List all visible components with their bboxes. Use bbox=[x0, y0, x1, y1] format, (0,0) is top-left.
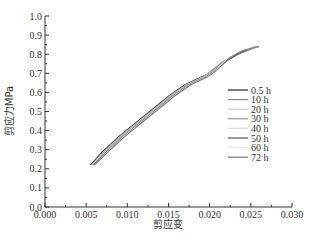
x-tick-label: 0.010 bbox=[116, 209, 139, 220]
y-tick-label: 1.0 bbox=[30, 11, 43, 22]
legend-label: 72 h bbox=[251, 152, 269, 163]
y-tick-label: 0.4 bbox=[30, 125, 43, 136]
x-tick-label: 0.000 bbox=[34, 209, 57, 220]
y-tick-label: 0.3 bbox=[30, 144, 43, 155]
x-ticks: 0.0000.0050.0100.0150.0200.0250.030 bbox=[34, 203, 304, 220]
legend: 0.5 h10 h20 h30 h40 h50 h60 h72 h bbox=[228, 85, 271, 163]
x-tick-label: 0.025 bbox=[240, 209, 263, 220]
x-axis-title: 剪应变 bbox=[153, 218, 183, 230]
shear-stress-strain-chart: 0.00.10.20.30.40.50.60.70.80.91.0 0.0000… bbox=[0, 0, 319, 244]
x-tick-label: 0.005 bbox=[75, 209, 98, 220]
x-tick-label: 0.020 bbox=[198, 209, 221, 220]
y-tick-label: 0.1 bbox=[30, 182, 43, 193]
y-tick-label: 0.2 bbox=[30, 163, 43, 174]
y-axis-title: 剪应力MPa bbox=[3, 86, 15, 136]
y-ticks: 0.00.10.20.30.40.50.60.70.80.91.0 bbox=[30, 11, 50, 213]
y-tick-label: 0.7 bbox=[30, 68, 43, 79]
y-tick-label: 0.9 bbox=[30, 30, 43, 41]
y-tick-label: 0.5 bbox=[30, 106, 43, 117]
y-tick-label: 0.8 bbox=[30, 49, 43, 60]
x-tick-label: 0.030 bbox=[281, 209, 304, 220]
series-line-0 bbox=[90, 49, 251, 166]
y-tick-label: 0.6 bbox=[30, 87, 43, 98]
